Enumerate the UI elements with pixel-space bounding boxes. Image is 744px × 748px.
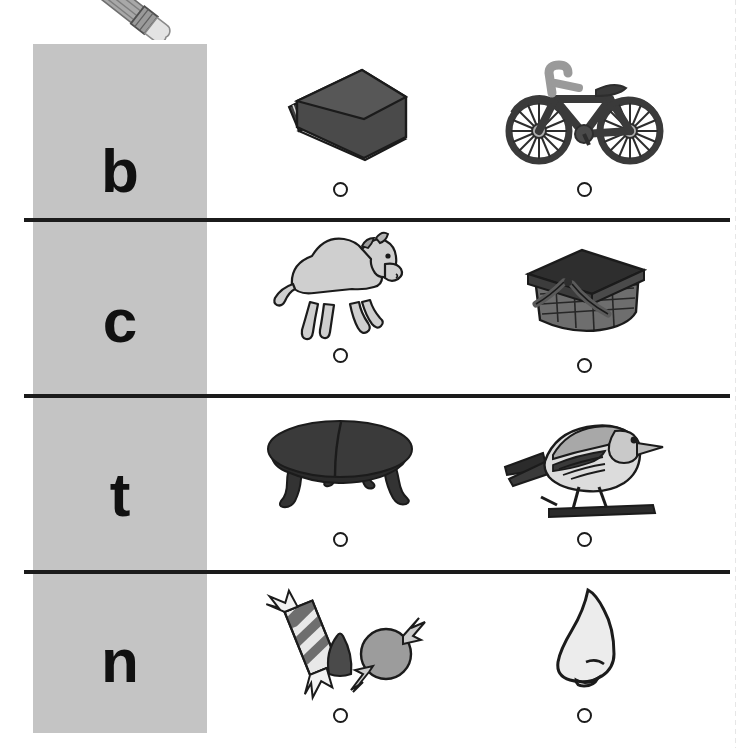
answer-bubble-wrap bbox=[240, 532, 440, 554]
nose-illustration bbox=[484, 582, 684, 702]
answer-bubble[interactable] bbox=[577, 358, 592, 373]
table-illustration bbox=[240, 406, 440, 526]
answer-bubble[interactable] bbox=[333, 182, 348, 197]
table-row: t bbox=[0, 398, 744, 572]
table-row: n bbox=[0, 574, 744, 734]
book-illustration bbox=[240, 56, 440, 176]
picture-cell[interactable] bbox=[240, 222, 440, 370]
answer-bubble[interactable] bbox=[577, 708, 592, 723]
answer-bubble[interactable] bbox=[333, 348, 348, 363]
picture-cell[interactable] bbox=[484, 582, 684, 730]
picture-cell[interactable] bbox=[240, 406, 440, 554]
picture-cell[interactable] bbox=[484, 56, 684, 204]
picture-cell[interactable] bbox=[484, 406, 684, 554]
answer-bubble[interactable] bbox=[333, 532, 348, 547]
answer-bubble[interactable] bbox=[577, 532, 592, 547]
bicycle-illustration bbox=[484, 56, 684, 176]
row-letter-1: b bbox=[33, 140, 207, 202]
scan-edge-artifact bbox=[735, 0, 736, 748]
camel-illustration bbox=[240, 222, 440, 342]
answer-bubble-wrap bbox=[484, 708, 684, 730]
pencil-icon bbox=[60, 0, 180, 40]
answer-bubble[interactable] bbox=[333, 708, 348, 723]
picture-cell[interactable] bbox=[240, 56, 440, 204]
answer-bubble-wrap bbox=[484, 358, 684, 380]
answer-bubble-wrap bbox=[484, 532, 684, 554]
picnic-basket-illustration bbox=[484, 232, 684, 352]
bird-illustration bbox=[484, 406, 684, 526]
worksheet-page: b bbox=[0, 0, 744, 748]
answer-bubble-wrap bbox=[484, 182, 684, 204]
row-letter-3: t bbox=[33, 464, 207, 526]
answer-bubble-wrap bbox=[240, 348, 440, 370]
table-row: c bbox=[0, 222, 744, 396]
table-row: b bbox=[0, 44, 744, 220]
row-letter-2: c bbox=[33, 290, 207, 352]
picture-cell[interactable] bbox=[484, 232, 684, 380]
answer-bubble-wrap bbox=[240, 708, 440, 730]
answer-bubble-wrap bbox=[240, 182, 440, 204]
candy-illustration bbox=[240, 582, 440, 702]
row-letter-4: n bbox=[33, 630, 207, 692]
answer-bubble[interactable] bbox=[577, 182, 592, 197]
picture-cell[interactable] bbox=[240, 582, 440, 730]
